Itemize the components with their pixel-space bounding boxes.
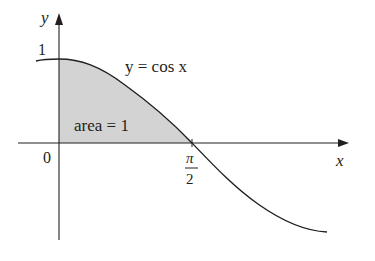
pi-numerator: π	[186, 150, 194, 166]
cosine-area-diagram: y 1 0 x π 2 y = cos x area = 1	[0, 0, 375, 261]
y-tick-one-label: 1	[38, 41, 46, 58]
x-axis-arrow-icon	[338, 139, 349, 147]
y-axis-arrow-icon	[55, 13, 63, 25]
curve-label: y = cos x	[125, 57, 187, 76]
y-axis-label: y	[39, 8, 49, 27]
pi-denominator: 2	[186, 171, 194, 187]
area-label: area = 1	[74, 116, 129, 135]
x-axis-label: x	[335, 151, 344, 170]
origin-label: 0	[43, 149, 51, 166]
curve-label-text: y = cos x	[125, 57, 187, 76]
